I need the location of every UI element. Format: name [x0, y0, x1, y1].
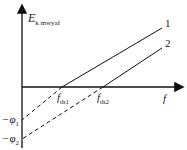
line-2-label: 2: [165, 37, 171, 49]
line-1-label: 1: [165, 17, 171, 29]
threshold-1-label: fth1: [57, 91, 70, 106]
energy-frequency-diagram: Ek mwyaf f 1 2 fth1 fth2 −φ1 −φ2: [0, 0, 187, 150]
line-2-solid: [103, 48, 162, 87]
intercept-1-label: −φ1: [2, 113, 20, 128]
y-axis-label: Ek mwyaf: [27, 11, 61, 27]
line-1-dashed: [22, 87, 62, 120]
intercept-2-label: −φ2: [2, 132, 20, 147]
line-2-dashed: [22, 87, 103, 139]
threshold-2-label: fth2: [97, 91, 110, 106]
x-axis-label: f: [163, 92, 168, 104]
